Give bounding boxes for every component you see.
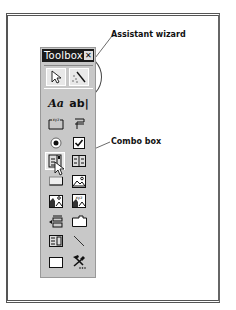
unbound-object-icon [49, 195, 63, 208]
toolbox-titlebar[interactable]: Toolbox ✕ [42, 49, 94, 62]
image-icon [72, 175, 86, 188]
toolbox-panel: Toolbox ✕ Aa ab| xyz [40, 47, 96, 278]
page-break-icon [49, 215, 63, 228]
bound-object-frame-tool[interactable]: xyz [69, 192, 89, 210]
control-wizards-button[interactable] [69, 68, 89, 86]
subform-icon [49, 235, 63, 247]
svg-text:xyz: xyz [53, 117, 60, 122]
text-box-ab-icon: ab| [69, 97, 88, 110]
subform-tool[interactable] [46, 232, 66, 250]
svg-text:xyz: xyz [76, 195, 83, 200]
page-break-tool[interactable] [46, 212, 66, 230]
option-group-tool[interactable]: xyz [46, 114, 66, 132]
bound-object-icon: xyz [72, 194, 86, 208]
line-icon [72, 234, 86, 248]
magic-wand-icon [71, 70, 87, 84]
select-objects-button[interactable] [46, 68, 66, 86]
tab-control-icon [72, 215, 87, 227]
toggle-button-icon [72, 116, 86, 130]
toggle-button-tool[interactable] [69, 114, 89, 132]
command-button-tool[interactable] [46, 172, 66, 190]
command-button-icon [49, 176, 63, 186]
image-tool[interactable] [69, 172, 89, 190]
label-tool[interactable]: Aa [46, 94, 66, 112]
callout-assistant-wizard: Assistant wizard [111, 30, 186, 39]
check-box-tool[interactable] [69, 134, 89, 152]
pointer-arrow-icon [50, 70, 62, 84]
callout-combo-box: Combo box [111, 137, 161, 146]
rectangle-tool[interactable] [46, 253, 66, 271]
list-box-icon [72, 155, 86, 167]
option-button-tool[interactable] [46, 134, 66, 152]
list-box-tool[interactable] [69, 152, 89, 170]
line-tool[interactable] [69, 232, 89, 250]
unbound-object-frame-tool[interactable] [46, 192, 66, 210]
option-group-icon: xyz [48, 116, 64, 130]
more-controls-hammer-icon [71, 254, 87, 270]
radio-button-icon [50, 137, 62, 149]
checkbox-icon [73, 137, 85, 149]
more-controls-tool[interactable] [69, 253, 89, 271]
tab-control-tool[interactable] [69, 212, 89, 230]
label-aa-icon: Aa [48, 97, 64, 110]
close-icon[interactable]: ✕ [84, 51, 93, 60]
toolbox-top-row [44, 65, 93, 89]
rectangle-icon [49, 257, 63, 268]
toolbox-title: Toolbox [44, 50, 83, 61]
text-box-tool[interactable]: ab| [69, 94, 89, 112]
